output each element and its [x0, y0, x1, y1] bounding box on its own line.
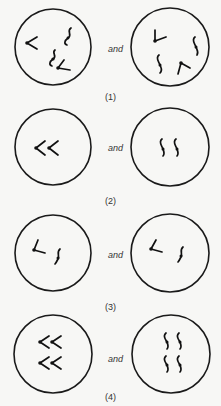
panel-4-left-cell: [14, 315, 92, 393]
panel-label-2: (2): [105, 196, 116, 206]
panel-1-left-cell: [15, 9, 91, 85]
panel-label-3: (3): [105, 302, 116, 312]
panel-1-right-cell: [131, 8, 209, 86]
and-label-1: and: [108, 44, 123, 54]
panel-label-1: (1): [105, 92, 116, 102]
and-label-3: and: [108, 250, 123, 260]
panel-4-right-cell: [132, 315, 210, 393]
panel-2-right-cell: [131, 108, 209, 186]
and-label-2: and: [108, 143, 123, 153]
panel-3-right-cell: [131, 214, 209, 292]
and-label-4: and: [108, 354, 123, 364]
panel-3-left-cell: [15, 215, 91, 291]
panel-label-4: (4): [105, 392, 116, 402]
panel-2-left-cell: [15, 109, 91, 185]
